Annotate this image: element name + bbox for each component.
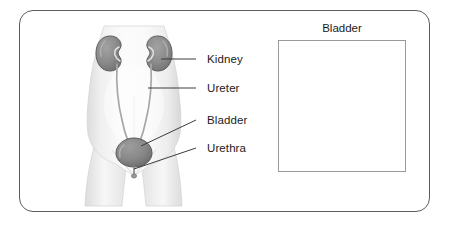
body-figure — [85, 26, 182, 206]
label-bladder: Bladder — [207, 115, 247, 127]
bladder-inset-frame — [278, 40, 406, 172]
diagram-page: Bladder Kidney Ureter Bladder Urethra — [0, 0, 450, 230]
bladder-body — [116, 138, 152, 167]
label-urethra: Urethra — [207, 143, 246, 155]
bladder-inset-title: Bladder — [278, 23, 406, 35]
label-ureter: Ureter — [207, 83, 240, 95]
abdomen-highlight — [104, 64, 164, 144]
urethra-opening — [131, 174, 136, 178]
label-kidney: Kidney — [207, 54, 243, 66]
